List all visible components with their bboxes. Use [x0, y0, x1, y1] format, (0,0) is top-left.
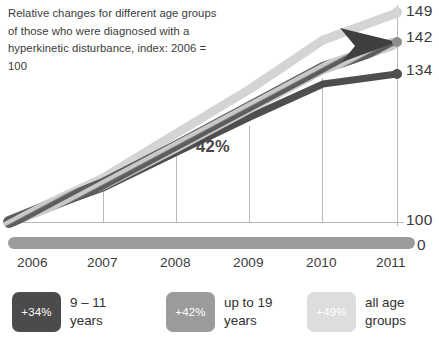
legend-item-all-age-groups: +49% all age groups — [307, 292, 406, 332]
y-tick-142: 142 — [406, 28, 432, 46]
legend-badge-49-percent: +49% — [307, 292, 356, 332]
y-tick-134: 134 — [406, 61, 432, 79]
y-tick-0: 0 — [417, 236, 426, 254]
series-line-up-to-19-years — [9, 44, 392, 222]
x-tick-2011: 2011 — [376, 255, 406, 270]
endpoint-dot-9-11-years — [392, 69, 402, 79]
x-tick-2006: 2006 — [17, 255, 48, 270]
x-tick-2010: 2010 — [306, 255, 337, 270]
legend-badge-42-percent: +42% — [166, 292, 215, 332]
chart-annotation-42-percent: 42% — [196, 137, 230, 156]
x-axis-bar — [8, 237, 415, 249]
endpoint-dot-all-age-groups — [392, 7, 402, 17]
y-tick-149: 149 — [406, 2, 432, 20]
legend-label-up-to-19-years: up to 19 years — [224, 294, 272, 330]
legend-badge-34-percent: +34% — [12, 292, 61, 332]
series-line-all-age-groups — [9, 13, 397, 222]
x-tick-2009: 2009 — [233, 255, 264, 270]
chart-legend: +34% 9 – 11 years +42% up to 19 years +4… — [0, 292, 439, 345]
y-tick-100: 100 — [406, 211, 432, 229]
endpoint-dot-up-to-19-years — [392, 37, 402, 47]
legend-label-all-age-groups: all age groups — [365, 294, 406, 330]
x-tick-2007: 2007 — [87, 255, 118, 270]
chart-figure: Relative changes for different age group… — [0, 0, 439, 345]
legend-item-9-11-years: +34% 9 – 11 years — [12, 292, 106, 332]
x-tick-2008: 2008 — [160, 255, 191, 270]
legend-item-up-to-19-years: +42% up to 19 years — [166, 292, 272, 332]
legend-label-9-11-years: 9 – 11 years — [70, 294, 106, 330]
